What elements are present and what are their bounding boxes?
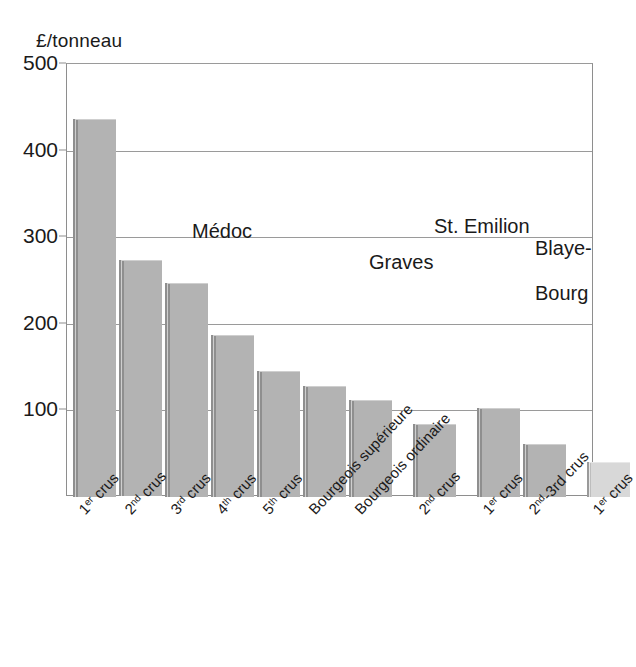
x-label-graves-2nd-crus: 2nd crus: [415, 467, 463, 517]
x-label-rest: crus: [179, 469, 214, 505]
x-label-medoc-1er-crus: 1er crus: [75, 469, 122, 517]
x-label-rest: crus: [601, 469, 636, 505]
x-label-st-emilion-2nd-3rd-crus: 2nd-3rd crus: [525, 448, 592, 518]
x-label-rest: crus: [491, 469, 526, 505]
x-label-medoc-2nd-crus: 2nd crus: [121, 467, 169, 517]
x-label-st-emilion-1er-crus: 1er crus: [479, 469, 526, 517]
x-label-medoc-4th-crus: 4th crus: [213, 470, 259, 518]
x-label-rest: crus: [87, 469, 122, 505]
x-label-medoc-3rd-crus: 3rd crus: [167, 469, 214, 517]
x-label-rest: -3rd crus: [538, 448, 591, 504]
x-label-medoc-5th-crus: 5th crus: [259, 470, 305, 518]
